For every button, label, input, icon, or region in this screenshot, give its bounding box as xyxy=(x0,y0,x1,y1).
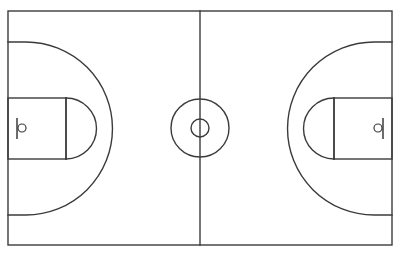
basketball-court-diagram: Basketball Court Diagram Full basketball… xyxy=(0,0,400,257)
court-canvas xyxy=(0,0,400,257)
